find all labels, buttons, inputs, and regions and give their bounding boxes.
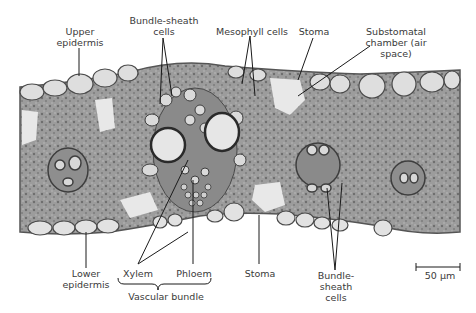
leaf-cross-section-figure: Upper epidermis Bundle-sheath cells Meso… bbox=[0, 0, 476, 313]
label-lower-epidermis: Lower epidermis bbox=[58, 268, 114, 290]
label-bundle-sheath-bottom: Bundle- sheath cells bbox=[308, 270, 364, 303]
label-substomatal-chamber: Substomatal chamber (air space) bbox=[360, 26, 432, 59]
label-phloem: Phloem bbox=[172, 268, 216, 279]
label-xylem: Xylem bbox=[118, 268, 158, 279]
label-stoma-bottom: Stoma bbox=[240, 268, 280, 279]
label-stoma-top: Stoma bbox=[294, 26, 334, 37]
label-vascular-bundle: Vascular bundle bbox=[124, 291, 208, 302]
label-upper-epidermis: Upper epidermis bbox=[52, 26, 108, 48]
label-bundle-sheath-top: Bundle-sheath cells bbox=[126, 15, 202, 37]
label-mesophyll-cells: Mesophyll cells bbox=[210, 26, 294, 37]
label-scale-bar: 50 μm bbox=[418, 270, 462, 281]
